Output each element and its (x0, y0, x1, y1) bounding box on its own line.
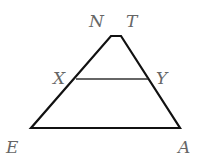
label-E: E (5, 137, 19, 157)
label-A: A (176, 137, 190, 157)
label-Y: Y (156, 68, 169, 88)
label-X: X (51, 68, 66, 88)
trapezoid-diagram: N T X Y E A (0, 0, 202, 163)
label-T: T (126, 11, 139, 31)
label-N: N (88, 11, 105, 31)
